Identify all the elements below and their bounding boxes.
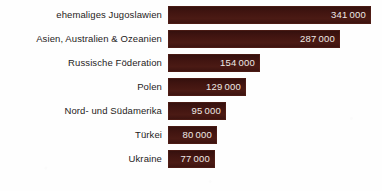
bar: 80 000 [168, 126, 217, 144]
bar-track: 80 000 [166, 126, 382, 144]
bar-row: Nord- und Südamerika 95 000 [0, 102, 382, 120]
bar-row: Ukraine 77 000 [0, 150, 382, 168]
bar-chart: ehemaliges Jugoslawien 341 000 Asien, Au… [0, 0, 382, 191]
bar-row: Asien, Australien & Ozeanien 287 000 [0, 30, 382, 48]
category-label: Türkei [0, 126, 166, 144]
bar-row: ehemaliges Jugoslawien 341 000 [0, 6, 382, 24]
bar-track: 129 000 [166, 78, 382, 96]
category-label: Polen [0, 78, 166, 96]
bar: 77 000 [168, 150, 215, 168]
bar-track: 341 000 [166, 6, 382, 24]
bar-series: ehemaliges Jugoslawien 341 000 Asien, Au… [0, 6, 382, 174]
bar-value-label: 341 000 [331, 6, 371, 24]
bar-row: Polen 129 000 [0, 78, 382, 96]
bar: 341 000 [168, 6, 371, 24]
bar: 287 000 [168, 30, 340, 48]
bar: 95 000 [168, 102, 226, 120]
bar-track: 287 000 [166, 30, 382, 48]
bar-value-label: 287 000 [300, 30, 340, 48]
bar-track: 154 000 [166, 54, 382, 72]
bar-track: 95 000 [166, 102, 382, 120]
category-label: Asien, Australien & Ozeanien [0, 30, 166, 48]
bar-value-label: 129 000 [206, 78, 246, 96]
bar: 129 000 [168, 78, 246, 96]
bar-value-label: 154 000 [220, 54, 260, 72]
category-label: Ukraine [0, 150, 166, 168]
bar-value-label: 95 000 [191, 102, 226, 120]
bar: 154 000 [168, 54, 260, 72]
bar-row: Türkei 80 000 [0, 126, 382, 144]
bar-track: 77 000 [166, 150, 382, 168]
bar-row: Russische Föderation 154 000 [0, 54, 382, 72]
bar-value-label: 77 000 [180, 150, 215, 168]
category-label: Russische Föderation [0, 54, 166, 72]
category-label: Nord- und Südamerika [0, 102, 166, 120]
category-label: ehemaliges Jugoslawien [0, 6, 166, 24]
bar-value-label: 80 000 [182, 126, 217, 144]
